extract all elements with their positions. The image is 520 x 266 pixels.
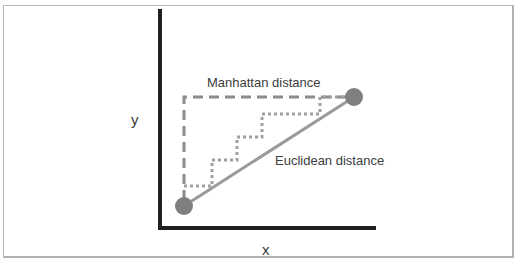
manhattan-path-staircase [184,97,346,186]
manhattan-label: Manhattan distance [207,75,320,90]
x-axis-label: x [262,241,270,258]
distance-diagram: Manhattan distance Euclidean distance y … [0,0,520,266]
start-point [175,197,193,215]
end-point [345,88,363,106]
y-axis-label: y [131,111,139,128]
euclidean-label: Euclidean distance [275,153,384,168]
